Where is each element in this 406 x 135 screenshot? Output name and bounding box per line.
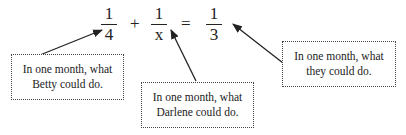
- denominator: 3: [206, 26, 222, 43]
- callout-line: Betty could do.: [12, 77, 123, 92]
- fraction-one-over-x: 1 x: [151, 5, 167, 43]
- numerator: 1: [206, 5, 222, 22]
- callout-darlene: In one month, what Darlene could do.: [141, 82, 254, 128]
- callout-line: In one month, what: [283, 49, 395, 64]
- equals-sign: =: [181, 15, 191, 32]
- callout-they: In one month, what they could do.: [282, 41, 396, 87]
- denominator: 4: [101, 26, 117, 43]
- arrow-darlene: [171, 30, 196, 81]
- plus-sign: +: [130, 15, 140, 32]
- fraction-one-fourth: 1 4: [101, 5, 117, 43]
- arrow-they: [233, 24, 283, 63]
- arrow-betty: [40, 30, 102, 55]
- numerator: 1: [101, 5, 117, 22]
- callout-line: they could do.: [283, 64, 395, 79]
- fraction-one-third: 1 3: [206, 5, 222, 43]
- numerator: 1: [151, 5, 167, 22]
- denominator: x: [151, 26, 167, 43]
- callout-betty: In one month, what Betty could do.: [11, 54, 124, 100]
- callout-line: In one month, what: [142, 90, 253, 105]
- callout-line: In one month, what: [12, 62, 123, 77]
- callout-line: Darlene could do.: [142, 105, 253, 120]
